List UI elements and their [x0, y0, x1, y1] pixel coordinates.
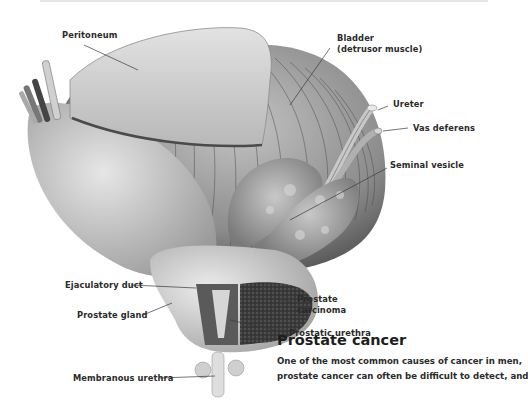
article-body: One of the most common causes of cancer … — [277, 354, 492, 384]
label-ureter: Ureter — [393, 99, 424, 110]
label-prostate-carcinoma: Prostate — [297, 294, 338, 305]
label-seminal-vesicle: Seminal vesicle — [390, 160, 464, 171]
label-vas-deferens: Vas deferens — [413, 123, 475, 134]
article-heading: Prostate cancer — [277, 332, 406, 348]
article-body-line: One of the most common causes of cancer … — [277, 354, 492, 369]
label-peritoneum: Peritoneum — [62, 30, 117, 41]
label-bladder: Bladder — [337, 33, 374, 44]
left-ureter-vas-tubes — [18, 60, 61, 124]
label-membranous-urethra: Membranous urethra — [73, 373, 174, 384]
membranous-urethra — [195, 352, 244, 397]
label-ejaculatory-duct: Ejaculatory duct — [65, 280, 143, 291]
article-body-line: prostate cancer can often be difficult t… — [277, 369, 492, 384]
label-bladder-detrusor: (detrusor muscle) — [337, 44, 422, 55]
label-prostate-carcinoma-2: carcinoma — [297, 305, 346, 316]
label-prostate-gland: Prostate gland — [77, 310, 148, 321]
